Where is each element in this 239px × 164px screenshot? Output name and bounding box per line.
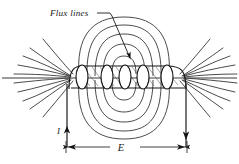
flux-lines-label: Flux lines (49, 8, 89, 18)
dimension-line-e (66, 141, 187, 153)
lead-wires (64, 84, 189, 147)
emf-label: E (117, 142, 125, 153)
current-label: I (56, 126, 61, 136)
coil-turns (76, 65, 173, 89)
flux-lines-leader (97, 13, 131, 60)
flux-lines-figure: Flux lines I E (0, 0, 239, 164)
figure-canvas: Flux lines I E (0, 0, 239, 164)
